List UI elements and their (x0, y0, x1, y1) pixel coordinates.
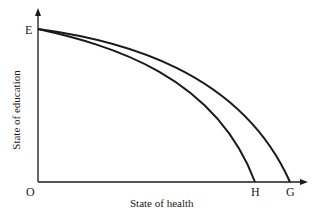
x-axis-arrow-icon (300, 179, 308, 185)
label-g: G (286, 185, 295, 199)
ppf-diagram: E O H G State of health State of educati… (0, 0, 326, 220)
y-axis-arrow-icon (35, 8, 41, 16)
label-o: O (26, 185, 35, 199)
curve-eg (38, 29, 290, 182)
curve-eh (38, 29, 255, 182)
label-h: H (251, 185, 260, 199)
x-axis-label: State of health (130, 197, 194, 209)
label-e: E (25, 23, 32, 37)
diagram-canvas: E O H G State of health State of educati… (0, 0, 326, 220)
y-axis-label: State of education (10, 70, 22, 150)
